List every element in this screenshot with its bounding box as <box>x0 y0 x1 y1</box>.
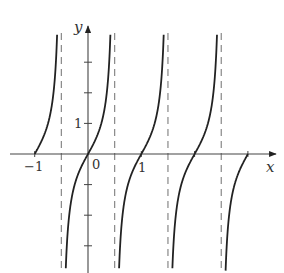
y-axis-label: y <box>73 18 83 36</box>
tangent-graph: y x −1 0 1 1 <box>0 0 284 273</box>
tangent-curves <box>35 35 248 271</box>
y-tick-label-1: 1 <box>74 116 82 131</box>
x-tick-label-0: 0 <box>92 157 100 172</box>
curve-branch-5 <box>226 154 248 271</box>
x-axis-label: x <box>266 158 275 176</box>
x-tick-label-1: 1 <box>138 160 146 175</box>
curve-branch-1 <box>35 35 57 154</box>
x-tick-label-neg1: −1 <box>24 159 43 174</box>
